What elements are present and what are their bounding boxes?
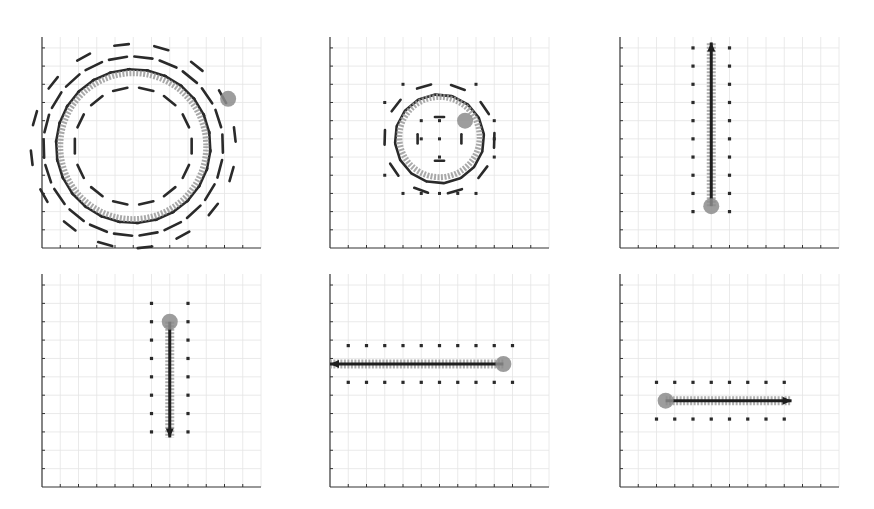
start-marker bbox=[658, 393, 674, 409]
grid bbox=[620, 37, 839, 248]
grid bbox=[42, 274, 261, 487]
panel-5 bbox=[330, 274, 549, 487]
panel-3 bbox=[620, 37, 839, 248]
plot-panel-4 bbox=[42, 274, 261, 487]
start-marker bbox=[495, 356, 511, 372]
arrowhead-icon bbox=[166, 428, 174, 437]
start-marker bbox=[162, 314, 178, 330]
plot-panel-2 bbox=[330, 37, 549, 248]
plot-panel-1 bbox=[42, 37, 261, 248]
start-marker bbox=[457, 113, 473, 129]
grid bbox=[330, 274, 549, 487]
panel-6 bbox=[620, 274, 839, 487]
plot-panel-3 bbox=[620, 37, 839, 248]
start-marker bbox=[703, 198, 719, 214]
arrowhead-icon bbox=[783, 397, 792, 405]
plot-panel-6 bbox=[620, 274, 839, 487]
plot-panel-5 bbox=[330, 274, 549, 487]
panel-2 bbox=[330, 37, 549, 248]
grid bbox=[620, 274, 839, 487]
panel-4 bbox=[42, 274, 261, 487]
panel-1 bbox=[42, 37, 261, 248]
start-marker bbox=[220, 91, 236, 107]
grid bbox=[330, 37, 549, 248]
